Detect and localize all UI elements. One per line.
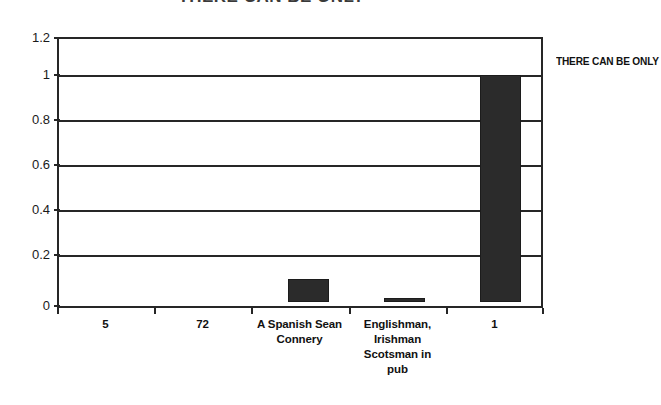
- y-tick-0.4: [54, 209, 60, 211]
- x-axis-label-line: 72: [154, 317, 251, 332]
- bar-englishman-irishman-scotsman-in-pub[interactable]: [384, 298, 425, 302]
- x-axis-label-5: 5: [57, 317, 154, 332]
- bar-a-spanish-sean-connery[interactable]: [288, 279, 329, 302]
- x-axis-label-line: Irishman: [349, 332, 446, 347]
- gridline-0.6: [59, 165, 541, 167]
- x-axis-label-line: A Spanish Sean: [251, 317, 348, 332]
- x-axis-label-line: Scotsman in: [349, 347, 446, 362]
- x-tick-2: [251, 308, 253, 314]
- gridline-0.4: [59, 210, 541, 212]
- x-axis-label-line: Connery: [251, 332, 348, 347]
- gridline-0.0: [59, 306, 541, 308]
- y-axis-label-0.0: 0: [6, 299, 50, 312]
- x-axis-label-72: 72: [154, 317, 251, 332]
- x-axis-label-line: pub: [349, 362, 446, 377]
- gridline-0.2: [59, 255, 541, 257]
- y-axis-label-0.8: 0.8: [6, 113, 50, 126]
- plot-area: [57, 37, 543, 308]
- y-axis-label-0.2: 0.2: [6, 248, 50, 261]
- x-tick-5: [542, 308, 544, 314]
- y-tick-0.8: [54, 119, 60, 121]
- gridline-1.0: [59, 75, 541, 77]
- y-tick-1.0: [54, 74, 60, 76]
- bar-1[interactable]: [480, 75, 521, 302]
- y-axis-label-1.0: 1: [6, 68, 50, 81]
- y-tick-1.2: [54, 37, 60, 39]
- x-tick-0: [57, 308, 59, 314]
- x-tick-4: [446, 308, 448, 314]
- legend: THERE CAN BE ONLY: [556, 55, 659, 67]
- chart-title: THERE CAN BE ONLY: [0, 0, 543, 7]
- x-axis-label-a-spanish-sean-connery: A Spanish Sean Connery: [251, 317, 348, 347]
- y-axis-label-1.2: 1.2: [6, 31, 50, 44]
- y-tick-0.6: [54, 164, 60, 166]
- x-tick-3: [349, 308, 351, 314]
- legend-entry-label: THERE CAN BE ONLY: [556, 55, 659, 67]
- gridline-0.8: [59, 120, 541, 122]
- y-axis-label-0.6: 0.6: [6, 158, 50, 171]
- x-axis-label-englishman-irishman-scotsman-in-pub: Englishman, Irishman Scotsman in pub: [349, 317, 446, 377]
- x-axis-label-line: 1: [446, 317, 543, 332]
- x-axis-label-line: 5: [57, 317, 154, 332]
- x-axis-label-1: 1: [446, 317, 543, 332]
- y-axis-label-0.4: 0.4: [6, 203, 50, 216]
- y-tick-0.0: [54, 305, 60, 307]
- x-tick-1: [154, 308, 156, 314]
- x-axis-label-line: Englishman,: [349, 317, 446, 332]
- y-tick-0.2: [54, 254, 60, 256]
